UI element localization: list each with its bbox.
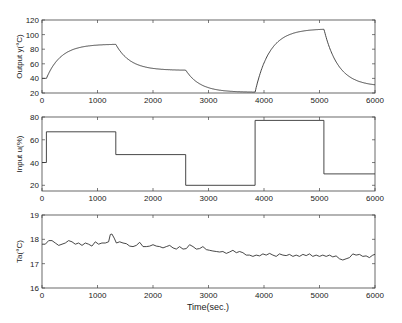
x-tick-label: 4000 xyxy=(255,96,273,105)
y-tick-label: 40 xyxy=(30,159,39,168)
plot-frame xyxy=(42,117,375,191)
x-tick-label: 6000 xyxy=(366,96,384,105)
plot-frame xyxy=(42,215,375,288)
x-tick-label: 5000 xyxy=(311,194,329,203)
x-tick-label: 5000 xyxy=(311,96,329,105)
y-tick-label: 120 xyxy=(26,16,40,25)
x-tick-label: 4000 xyxy=(255,291,273,300)
x-tick-label: 1000 xyxy=(89,194,107,203)
subplot-input: 010002000300040005000600020406080Input u… xyxy=(15,113,384,203)
x-tick-label: 2000 xyxy=(144,96,162,105)
y-tick-label: 18 xyxy=(30,235,39,244)
y-tick-label: 80 xyxy=(30,45,39,54)
x-tick-label: 4000 xyxy=(255,194,273,203)
x-tick-label: 1000 xyxy=(89,96,107,105)
x-tick-label: 0 xyxy=(40,194,45,203)
y-axis-label: Ta(°C) xyxy=(15,240,24,263)
y-tick-label: 20 xyxy=(30,181,39,190)
y-axis-label: Output y(°C) xyxy=(15,34,24,79)
x-tick-label: 0 xyxy=(40,291,45,300)
x-tick-label: 3000 xyxy=(200,194,218,203)
y-tick-label: 60 xyxy=(30,60,39,69)
x-tick-label: 2000 xyxy=(144,194,162,203)
plot-frame xyxy=(42,20,375,93)
y-axis-label: Input u(%) xyxy=(15,135,24,172)
y-tick-label: 100 xyxy=(26,31,40,40)
subplot-ambient-temperature: 010002000300040005000600016171819Ta(°C) xyxy=(15,211,384,300)
x-axis-label: Time(sec.) xyxy=(187,302,229,312)
y-tick-label: 80 xyxy=(30,113,39,122)
chart-canvas: 010002000300040005000600020406080100120O… xyxy=(0,0,402,323)
data-line xyxy=(42,120,375,185)
figure: 010002000300040005000600020406080100120O… xyxy=(0,0,402,323)
x-tick-label: 3000 xyxy=(200,291,218,300)
x-tick-label: 6000 xyxy=(366,194,384,203)
x-tick-label: 6000 xyxy=(366,291,384,300)
y-tick-label: 20 xyxy=(30,89,39,98)
y-tick-label: 16 xyxy=(30,284,39,293)
y-tick-label: 60 xyxy=(30,136,39,145)
x-tick-label: 2000 xyxy=(144,291,162,300)
y-tick-label: 40 xyxy=(30,74,39,83)
y-tick-label: 17 xyxy=(30,260,39,269)
y-tick-label: 19 xyxy=(30,211,39,220)
x-tick-label: 1000 xyxy=(89,291,107,300)
x-tick-label: 0 xyxy=(40,96,45,105)
data-line xyxy=(42,234,375,260)
x-tick-label: 5000 xyxy=(311,291,329,300)
data-line xyxy=(42,29,375,92)
subplot-output: 010002000300040005000600020406080100120O… xyxy=(15,16,384,105)
x-tick-label: 3000 xyxy=(200,96,218,105)
